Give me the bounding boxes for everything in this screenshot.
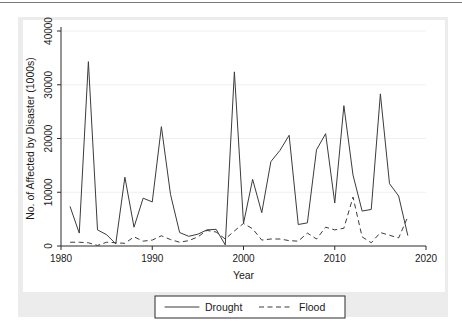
x-tick-label: 1980 — [50, 253, 73, 264]
line-chart: 010000200003000040000 198019902000201020… — [0, 0, 462, 332]
y-tick-label: 40000 — [43, 17, 54, 45]
data-series-layer — [70, 62, 408, 246]
y-tick-label: 10000 — [43, 178, 54, 206]
x-tick-label: 1990 — [141, 253, 164, 264]
chart-legend[interactable]: DroughtFlood — [155, 296, 345, 318]
legend-label-drought: Drought — [205, 301, 242, 313]
grid-layer — [61, 31, 426, 192]
y-axis-title: No. of Affected by Disaster (1000s) — [24, 57, 36, 220]
x-tick-label: 2010 — [324, 253, 347, 264]
figure-page: 010000200003000040000 198019902000201020… — [0, 0, 462, 332]
y-tick-label: 30000 — [43, 70, 54, 98]
legend-label-flood: Flood — [299, 301, 325, 313]
x-tick-label: 2000 — [232, 253, 255, 264]
x-tick-label: 2020 — [415, 253, 438, 264]
y-axis-ticks: 010000200003000040000 — [43, 17, 61, 249]
axes-layer — [61, 27, 426, 246]
y-tick-label: 20000 — [43, 124, 54, 152]
x-axis-title: Year — [233, 269, 255, 281]
y-tick-label: 0 — [43, 243, 54, 249]
x-axis-ticks: 19801990200020102020 — [50, 246, 438, 264]
series-line-drought — [70, 62, 408, 245]
